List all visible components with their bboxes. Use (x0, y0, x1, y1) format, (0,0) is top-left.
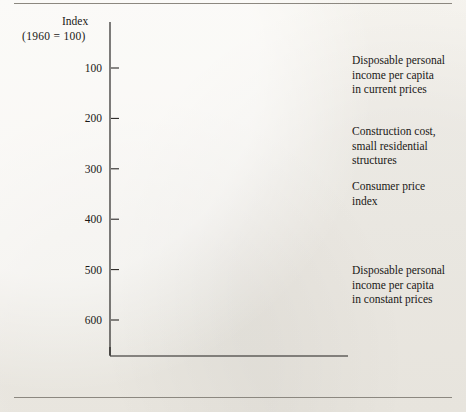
series-label-line: Consumer price (352, 179, 425, 194)
series-label-dpi-current: Disposable personal income per capita in… (352, 53, 445, 97)
y-axis-caption-base: (1960 = 100) (22, 29, 86, 43)
chart-ticks (110, 68, 119, 355)
chart-tick-labels: 600500400300200100 (85, 62, 103, 326)
series-label-cpi: Consumer price index (352, 179, 425, 208)
series-label-line: income per capita (352, 68, 445, 83)
y-axis-tick-label: 400 (85, 213, 103, 225)
series-label-line: index (352, 194, 425, 209)
series-label-line: income per capita (352, 278, 445, 293)
y-axis-tick-label: 200 (85, 112, 103, 124)
series-label-line: in constant prices (352, 292, 445, 307)
y-axis-tick-label: 600 (85, 314, 103, 326)
y-axis-tick-label: 100 (85, 62, 103, 74)
y-axis-caption-index: Index (62, 14, 88, 28)
y-axis-tick-label: 300 (85, 163, 103, 175)
series-label-dpi-constant: Disposable personal income per capita in… (352, 263, 445, 307)
series-label-line: Construction cost, (352, 124, 436, 139)
series-label-line: Disposable personal (352, 53, 445, 68)
series-label-line: Disposable personal (352, 263, 445, 278)
y-axis-tick-label: 500 (85, 264, 103, 276)
series-label-line: small residential (352, 139, 436, 154)
series-label-line: structures (352, 153, 436, 168)
series-label-line: in current prices (352, 82, 445, 97)
chart-axes (110, 22, 348, 356)
series-label-construction-cost: Construction cost, small residential str… (352, 124, 436, 168)
